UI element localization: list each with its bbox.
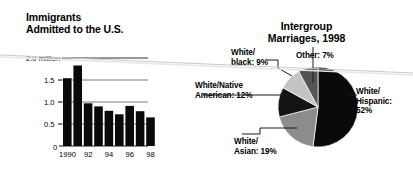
pie-label-white-native-american: White/Native American: 12% xyxy=(195,81,252,100)
pie-label-white-asian: White/ Asian: 19% xyxy=(234,137,277,156)
bar-x-label-96: 96 xyxy=(126,150,134,159)
pie-label-white-hispanic: White/ Hispanic: 52% xyxy=(356,87,392,116)
pie-label-asian-line2: Asian: 19% xyxy=(234,147,277,157)
bar-x-label-98: 98 xyxy=(146,150,154,159)
pie-chart-panel: Intergroup Marriages, 1998 xyxy=(200,0,413,172)
bar-x-label-92: 92 xyxy=(84,150,92,159)
bar-chart-bars xyxy=(63,66,155,147)
bar-y-label-2-0: 2.0 million xyxy=(26,54,60,63)
bar-1992 xyxy=(84,103,93,146)
bar-1997 xyxy=(136,111,145,146)
pie-label-white-black-line2: black: 9% xyxy=(231,58,268,68)
bar-chart-panel: Immigrants Admitted to the U.S. xyxy=(0,0,200,172)
bar-chart-plot: 2.0 million 1.5 1.0 0.5 0 1990 92 94 96 … xyxy=(0,0,200,172)
pie-label-white-black-line1: White/ xyxy=(231,48,268,58)
pie-slice-white-hispanic xyxy=(313,67,358,147)
bar-1993 xyxy=(94,106,103,146)
bar-y-label-0-5: 0.5 xyxy=(44,120,55,129)
bar-x-label-94: 94 xyxy=(105,150,113,159)
bar-1996 xyxy=(125,106,134,146)
bar-1990 xyxy=(63,78,72,146)
bar-chart-y-ticks xyxy=(58,80,62,146)
pie-label-hispanic-line3: 52% xyxy=(356,106,392,116)
pie-label-hispanic-line2: Hispanic: xyxy=(356,97,392,107)
bar-x-label-1990: 1990 xyxy=(59,150,76,159)
two-chart-figure: Immigrants Admitted to the U.S. xyxy=(0,0,413,172)
pie-label-white-black: White/ black: 9% xyxy=(231,48,268,67)
bar-y-label-0: 0 xyxy=(53,143,57,152)
bar-y-label-1-5: 1.5 xyxy=(44,76,55,85)
pie-label-other-text: Other: 7% xyxy=(296,51,334,61)
bar-y-label-1-0: 1.0 xyxy=(44,98,55,107)
pie-label-native-line1: White/Native xyxy=(195,81,252,91)
pie-label-native-line2: American: 12% xyxy=(195,91,252,101)
bar-1995 xyxy=(115,114,124,146)
pie-label-hispanic-line1: White/ xyxy=(356,87,392,97)
pie-label-other: Other: 7% xyxy=(296,51,334,61)
bar-1998 xyxy=(146,117,155,146)
bar-1991 xyxy=(73,66,82,147)
bar-1994 xyxy=(105,111,114,146)
pie-label-asian-line1: White/ xyxy=(234,137,277,147)
